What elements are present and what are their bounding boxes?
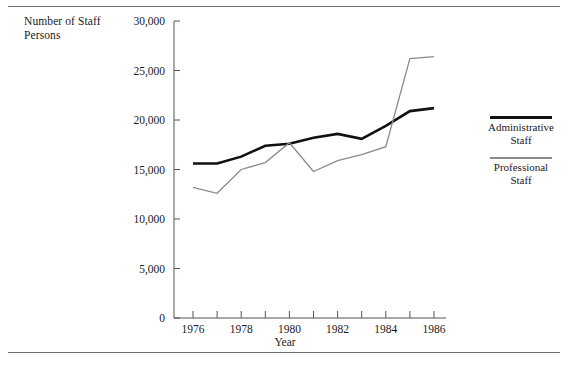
x-tick-label: 1978 <box>230 323 253 335</box>
x-tick-label: 1980 <box>278 323 301 335</box>
legend-entry-administrative-staff: Administrative Staff <box>478 116 564 147</box>
x-tick-label: 1976 <box>182 323 205 335</box>
legend-label-line2: Staff <box>510 134 531 146</box>
y-tick-label: 0 <box>159 312 165 324</box>
y-tick-label: 20,000 <box>133 114 165 127</box>
legend-label-administrative-staff: Administrative Staff <box>478 121 564 147</box>
x-tick-label: 1982 <box>326 323 349 335</box>
x-axis-title: Year <box>274 336 295 348</box>
legend-label-line1: Professional <box>494 161 548 173</box>
x-tick-label: 1984 <box>374 323 397 335</box>
y-tick-label: 5,000 <box>139 263 165 276</box>
series-line-professional-staff <box>193 57 434 194</box>
series-line-administrative-staff <box>193 108 434 163</box>
legend-entry-professional-staff: Professional Staff <box>478 157 564 187</box>
legend-swatch-administrative-staff <box>490 116 552 119</box>
y-tick-label: 30,000 <box>133 15 165 28</box>
y-tick-label: 15,000 <box>133 164 165 177</box>
x-tick-label: 1986 <box>423 323 446 335</box>
chart-legend: Administrative Staff Professional Staff <box>478 116 564 197</box>
legend-label-professional-staff: Professional Staff <box>478 161 564 187</box>
legend-swatch-professional-staff <box>490 157 552 159</box>
legend-label-line1: Administrative <box>488 121 554 133</box>
y-tick-label: 10,000 <box>133 213 165 226</box>
legend-label-line2: Staff <box>510 174 531 186</box>
y-tick-label: 25,000 <box>133 65 165 78</box>
